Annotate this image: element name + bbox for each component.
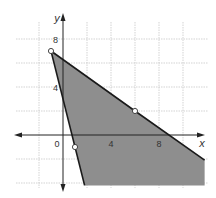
- open-point: [132, 108, 137, 113]
- open-point: [48, 48, 53, 53]
- y-axis-up-arrow-icon: [61, 13, 66, 21]
- y-tick-label: 8: [53, 35, 58, 45]
- x-tick-label: 8: [156, 139, 161, 149]
- y-axis-label: y: [53, 12, 61, 24]
- y-axis-down-arrow-icon: [61, 184, 66, 192]
- shaded-region: [51, 51, 205, 185]
- x-axis-label: x: [198, 137, 205, 149]
- open-point: [72, 144, 77, 149]
- y-tick-label: 4: [53, 83, 58, 93]
- x-axis-left-arrow-icon: [14, 133, 22, 138]
- x-tick-label: 4: [108, 139, 113, 149]
- inequality-graph: 04848xy: [0, 0, 216, 198]
- x-tick-label: 0: [54, 139, 59, 149]
